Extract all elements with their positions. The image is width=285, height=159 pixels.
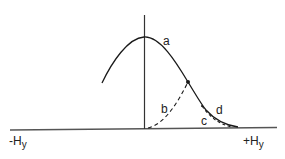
- label-c: c: [201, 114, 207, 128]
- diagram-canvas: a b c d -Hy +Hy: [0, 0, 285, 159]
- axis-right-label: +Hy: [243, 134, 264, 150]
- axis-left-label: -Hy: [9, 134, 27, 150]
- marked-point: [186, 80, 190, 84]
- label-b: b: [161, 102, 168, 116]
- horizontal-axis: [10, 128, 277, 131]
- label-d: d: [216, 103, 223, 117]
- label-a: a: [163, 34, 170, 48]
- curve-b: [148, 82, 188, 128]
- small-point: [201, 105, 203, 107]
